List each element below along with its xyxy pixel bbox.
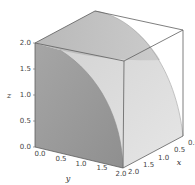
x-tick-2: 1.0: [158, 154, 169, 162]
y-tick-0: 0.0: [34, 150, 45, 158]
z-tick-2: 1.0: [20, 91, 31, 99]
z-tick-4: 2.0: [20, 39, 31, 47]
y-tick-3: 1.5: [96, 164, 107, 172]
x-tick-3: 1.5: [143, 161, 154, 169]
x-tick-1: 0.5: [174, 146, 185, 154]
z-tick-3: 1.5: [20, 65, 31, 73]
y-axis-label: y: [65, 174, 71, 183]
y-tick-2: 1.0: [75, 160, 86, 168]
sphere-octant-3d-plot: 0.0 0.5 1.0 1.5 2.0 z 0.0 0.5 1.0 1.5 2.…: [0, 0, 195, 185]
z-axis: 0.0 0.5 1.0 1.5 2.0 z: [6, 39, 35, 151]
x-axis-label: x: [177, 158, 182, 167]
x-tick-0: 0.0: [188, 139, 195, 147]
y-tick-1: 0.5: [55, 155, 66, 163]
y-tick-4: 2.0: [115, 170, 126, 178]
z-tick-1: 0.5: [20, 117, 31, 125]
z-tick-0: 0.0: [20, 143, 31, 151]
x-tick-4: 2.0: [128, 168, 139, 176]
z-axis-label: z: [6, 91, 12, 100]
